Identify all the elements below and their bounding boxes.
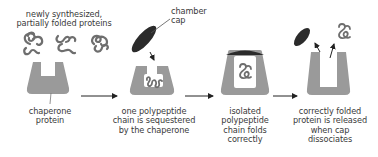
label-step2: one polypeptide chain is sequestered by … <box>108 107 200 135</box>
chaperone-protein-shape <box>27 62 69 94</box>
label-step4: correctly folded protein is released whe… <box>284 107 376 145</box>
chamber-cap-shape <box>291 25 313 48</box>
label-line: protein <box>20 116 80 125</box>
chaperone-protein-shape <box>307 52 350 95</box>
unfolded-protein-icon <box>24 33 42 54</box>
label-line: cap <box>171 16 207 25</box>
label-line: partially folded proteins <box>8 19 120 28</box>
chamber-cap-shape <box>128 22 160 55</box>
label-new-proteins: newly synthesized, partially folded prot… <box>8 10 120 29</box>
label-step3: isolated polypeptide chain folds correct… <box>213 107 277 145</box>
label-line: by the chaperone <box>108 126 200 135</box>
protein-release-arrow <box>330 44 334 58</box>
chaperone-folding-diagram: newly synthesized, partially folded prot… <box>0 0 378 157</box>
label-chaperone-protein: chaperone protein <box>20 107 80 126</box>
chaperone-pointer-line <box>50 93 51 104</box>
label-line: correctly <box>213 135 277 144</box>
label-line: dissociates <box>284 135 376 144</box>
cap-release-arrow <box>315 43 320 52</box>
folded-protein-icon <box>339 24 350 38</box>
unfolded-protein-icon <box>92 36 108 52</box>
cap-motion-arrow <box>150 52 154 60</box>
unfolded-protein-icon <box>57 36 76 53</box>
label-chamber-cap: chamber cap <box>171 7 207 26</box>
